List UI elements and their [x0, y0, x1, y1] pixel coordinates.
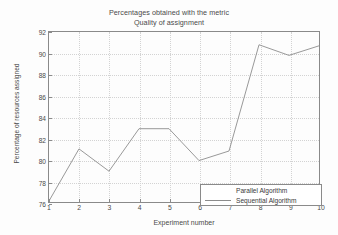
data-series-layer	[49, 32, 319, 202]
chart-title: Percentages obtained with the metric	[0, 8, 338, 18]
y-tick-label: 82	[39, 136, 46, 143]
y-tick-label: 92	[39, 29, 46, 36]
y-tick-label: 76	[39, 201, 46, 208]
chart-legend: Parallel AlgorithmSequential Algorithm	[200, 184, 322, 206]
legend-line-sample	[205, 200, 231, 201]
x-tick-label: 5	[168, 204, 172, 211]
x-axis-label: Experiment number	[48, 219, 320, 226]
legend-item: Parallel Algorithm	[205, 186, 317, 196]
y-tick-label: 80	[39, 158, 46, 165]
y-tick-label: 88	[39, 72, 46, 79]
y-tick-label: 78	[39, 179, 46, 186]
x-tick-label: 2	[77, 204, 81, 211]
legend-label: Parallel Algorithm	[236, 187, 287, 194]
legend-line-sample	[205, 190, 231, 191]
chart-subtitle: Quality of assignment	[0, 18, 338, 28]
y-tick-label: 90	[39, 50, 46, 57]
x-tick-label: 3	[108, 204, 112, 211]
y-axis-label: Percentage of resources assigned	[13, 39, 20, 189]
chart-title-block: Percentages obtained with the metric Qua…	[0, 8, 338, 27]
y-tick-mark	[49, 204, 52, 205]
chart-figure: Percentages obtained with the metric Qua…	[0, 0, 338, 235]
legend-label: Sequential Algorithm	[236, 197, 296, 204]
x-tick-label: 4	[138, 204, 142, 211]
y-tick-label: 86	[39, 93, 46, 100]
y-tick-label: 84	[39, 115, 46, 122]
series-line	[49, 45, 319, 201]
legend-item: Sequential Algorithm	[205, 196, 317, 206]
x-tick-label: 1	[47, 204, 51, 211]
plot-area: 12345678910767880828486889092	[48, 31, 320, 203]
